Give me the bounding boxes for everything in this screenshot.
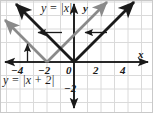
plot-background <box>0 0 153 113</box>
parent-equation-label: y = |x| <box>41 2 72 14</box>
x-tick-4: 4 <box>120 65 126 76</box>
coordinate-plane <box>0 0 153 113</box>
x-tick-2: 2 <box>93 65 99 76</box>
x-tick-minus-4: −4 <box>11 65 23 76</box>
x-tick-minus-2: −2 <box>38 65 50 76</box>
x-axis-label: x <box>138 49 144 60</box>
y-tick-minus-2: −2 <box>64 83 76 94</box>
y-axis-label: y <box>83 3 88 14</box>
graph-figure: y = |x| y x y = |x + 2| −4 −2 0 2 4 −2 <box>0 0 153 113</box>
x-tick-0: 0 <box>66 65 72 76</box>
